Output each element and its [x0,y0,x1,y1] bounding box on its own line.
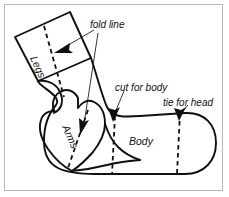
callout-fold-line: fold line [90,19,125,30]
fold-line-legs [44,26,64,97]
figure-canvas: fold line cut for body tie for head Legs… [0,0,229,197]
sock-body-outline [38,58,216,174]
callout-cut-for-body: cut for body [115,82,168,93]
arrowhead-cut-body [108,107,120,122]
tie-line-head [177,113,180,174]
arrowhead-legs-fold [54,43,73,53]
sock-pattern-diagram: fold line cut for body tie for head Legs… [0,0,229,197]
part-label-arms: Arms [60,122,82,151]
sock-cuff-outline [15,12,91,81]
sock-outline-group [15,12,216,174]
part-label-body: Body [129,135,154,147]
callout-leaders-group [65,30,188,124]
cut-line-body [112,116,115,174]
sole-crease [72,160,140,171]
callout-tie-for-head: tie for head [163,97,213,108]
